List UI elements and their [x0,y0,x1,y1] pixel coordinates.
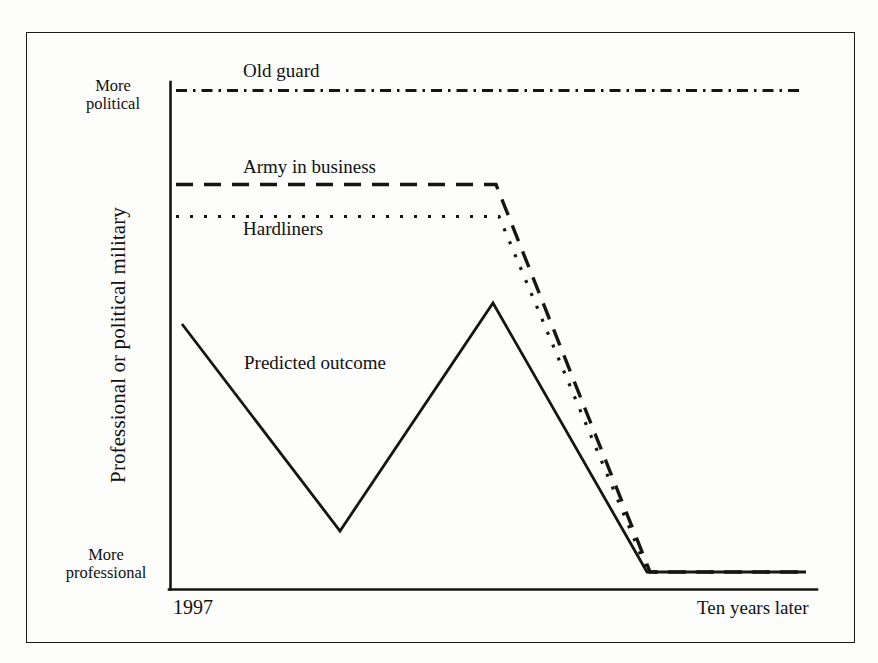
y-axis-title: Professional or political military [106,207,131,483]
series-label-predicted-outcome: Predicted outcome [244,352,386,374]
series-label-hardliners: Hardliners [243,218,323,240]
y-axis-top-label: More political [60,77,166,113]
y-axis-bottom-label-line2: professional [66,563,147,582]
y-axis-top-label-line2: political [86,94,140,113]
x-axis-start-label: 1997 [173,596,213,619]
y-axis-top-label-line1: More [95,76,131,95]
series-label-army-in-business: Army in business [243,156,376,178]
series-line-hardliners [176,217,805,573]
figure-container: More political More professional Profess… [0,0,878,663]
y-axis-bottom-label-line1: More [88,545,124,564]
series-line-predicted-outcome [182,303,806,572]
series-label-old-guard: Old guard [243,60,320,82]
y-axis-bottom-label: More professional [46,546,166,582]
series-line-army-in-business [176,185,805,573]
x-axis-end-label: Ten years later [697,597,809,619]
